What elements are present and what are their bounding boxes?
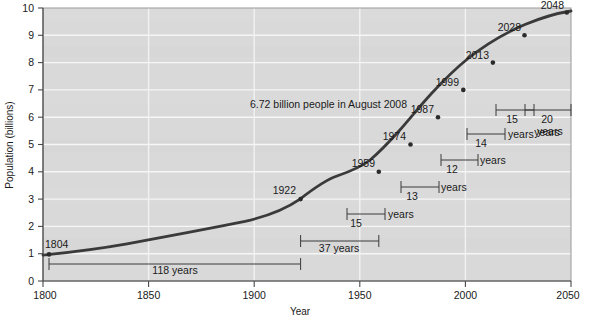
milestone-label-1922: 1922 [273,184,297,196]
y-tick-label: 4 [28,165,34,177]
interval-bracket-number-15-years-2013-2028: 15 [506,113,518,125]
milestone-label-2048: 2048 [541,0,565,11]
x-tick-label: 1950 [348,289,372,301]
chart-canvas: 0 1 2 3 4 5 6 7 8 9 10 Population (billi… [0,0,591,321]
milestone-marker-1974 [408,142,413,147]
y-tick-label: 6 [28,111,34,123]
milestone-label-2028: 2028 [498,21,522,33]
milestone-marker-1922 [298,197,303,202]
interval-bracket-unit-15-years-1959-1974: years [388,208,414,220]
x-axis-tick-labels: 1800 1850 1900 1950 2000 2050 [33,289,580,301]
y-tick-label: 1 [28,247,34,259]
interval-bracket-number-14-years: 14 [475,137,487,149]
milestone-marker-2028 [522,33,527,38]
y-tick-label: 8 [28,56,34,68]
x-tick-label: 2000 [454,289,478,301]
milestone-marker-2013 [491,60,496,65]
interval-bracket-number-12-years: 12 [446,163,458,175]
milestone-label-1959: 1959 [352,157,376,169]
y-tick-label: 3 [28,193,34,205]
milestone-label-2013: 2013 [466,49,490,61]
x-tick-label: 1900 [243,289,267,301]
interval-bracket-unit-14-years: years [508,128,534,140]
milestone-label-1987: 1987 [411,103,435,115]
interval-bracket-unit-20-years: years [534,126,560,138]
interval-bracket-number-15-years-1959-1974: 15 [350,217,362,229]
milestone-marker-1987 [436,115,441,120]
y-tick-label: 7 [28,83,34,95]
interval-bracket-unit-13-years: years [441,181,467,193]
y-tick-label: 0 [28,275,34,287]
y-axis-title: Population (billions) [4,101,15,188]
milestone-marker-2048 [565,10,570,15]
y-tick-label: 5 [28,138,34,150]
x-tick-label: 1850 [137,289,161,301]
y-tick-label: 9 [28,29,34,41]
interval-bracket-number-13-years: 13 [406,190,418,202]
milestone-label-1974: 1974 [383,130,407,142]
interval-bracket-number-20-years: 20 [541,113,553,125]
interval-bracket-unit-12-years: years [480,154,506,166]
milestone-marker-1959 [377,170,382,175]
population-growth-chart: 0 1 2 3 4 5 6 7 8 9 10 Population (billi… [0,0,591,321]
y-axis-ticks [38,8,43,281]
interval-bracket-label-37-years: 37 years [319,242,359,254]
y-tick-label: 2 [28,220,34,232]
y-tick-label: 10 [22,2,34,14]
x-axis-title: Year [290,306,311,317]
x-tick-label: 2050 [556,289,580,301]
milestone-marker-1804 [47,252,52,257]
y-axis-tick-labels: 0 1 2 3 4 5 6 7 8 9 10 [22,2,34,287]
milestone-label-1804: 1804 [45,238,69,250]
milestone-label-1999: 1999 [436,76,460,88]
x-axis-ticks [43,281,571,287]
x-tick-label: 1800 [33,289,57,301]
chart-annotation-text: 6.72 billion people in August 2008 [250,98,407,110]
milestone-marker-1999 [461,88,466,93]
interval-bracket-label-118-years: 118 years [152,264,197,276]
